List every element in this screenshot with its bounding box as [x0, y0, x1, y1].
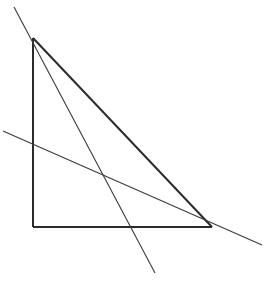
geometry-figure-svg — [0, 0, 264, 285]
figure-canvas — [0, 0, 264, 285]
